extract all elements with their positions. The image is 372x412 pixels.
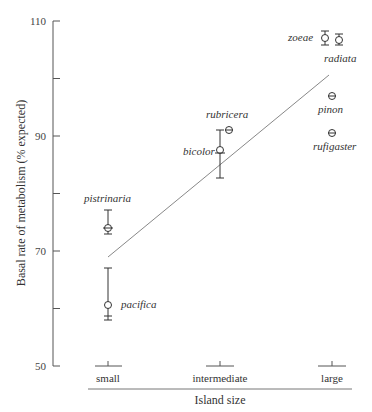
point-pistrinaria: pistrinaria [83,192,132,234]
y-axis: 110 90 70 50 Basal rate of metabolism (%… [14,15,60,372]
x-category-small: small [96,372,120,384]
regression-line [108,75,329,257]
label-pinon: pinon [317,103,344,115]
y-tick-70: 70 [35,245,47,257]
label-zoeae: zoeae [287,31,313,43]
point-bicolor: bicolor [183,130,225,178]
x-axis-title: Island size [195,393,246,407]
point-pinon: pinon [317,93,344,116]
y-tick-110: 110 [30,15,47,27]
label-pacifica: pacifica [120,298,157,310]
label-radiata: radiata [324,52,357,64]
label-rufigaster: rufigaster [313,140,357,152]
x-axis: small intermediate large Island size [88,361,352,407]
label-pistrinaria: pistrinaria [83,192,132,204]
x-category-large: large [321,372,343,384]
chart: 110 90 70 50 Basal rate of metabolism (%… [0,0,372,412]
label-rubricera: rubricera [206,108,249,120]
point-rubricera: rubricera [206,108,249,134]
y-tick-90: 90 [35,130,47,142]
label-bicolor: bicolor [183,145,215,157]
point-pacifica: pacifica [104,268,157,320]
point-zoeae: zoeae [287,31,329,45]
point-rufigaster: rufigaster [313,130,357,153]
y-axis-title: Basal rate of metabolism (% expected) [14,100,28,286]
x-category-intermediate: intermediate [193,372,248,384]
y-tick-50: 50 [35,360,47,372]
